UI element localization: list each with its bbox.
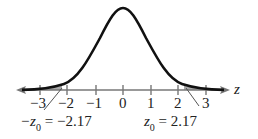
tick-label: 1 bbox=[147, 95, 155, 111]
tick-label: 0 bbox=[119, 95, 127, 111]
tick-label: 3 bbox=[202, 95, 210, 111]
tick-label: −2 bbox=[58, 95, 74, 111]
axis-variable-label: z bbox=[233, 81, 240, 97]
tick-label: −3 bbox=[30, 95, 46, 111]
normal-curve-diagram: −3 −2 −1 0 1 2 3 z −z0 = −2.17 z0 = 2.17 bbox=[0, 0, 258, 139]
tick-label: 2 bbox=[174, 95, 182, 111]
tick-label: −1 bbox=[86, 95, 102, 111]
bell-curve bbox=[22, 8, 224, 90]
right-critical-value-label: z0 = 2.17 bbox=[143, 113, 198, 133]
left-critical-value-label: −z0 = −2.17 bbox=[20, 113, 92, 133]
